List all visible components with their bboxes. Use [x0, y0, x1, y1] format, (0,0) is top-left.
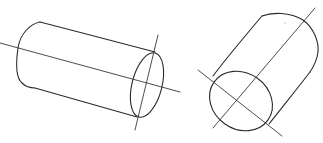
right-cylinder-top-edge	[213, 16, 262, 76]
right-cylinder-long-axis	[213, 8, 315, 128]
left-cylinder	[0, 22, 180, 130]
left-cylinder-top-edge	[40, 22, 155, 52]
left-cylinder-front-ellipse	[124, 49, 169, 120]
left-cylinder-back-arc	[17, 22, 40, 88]
pencil-mark	[284, 22, 286, 24]
right-cylinder	[198, 8, 318, 143]
left-cylinder-bottom-edge	[35, 88, 137, 117]
left-cylinder-long-axis	[0, 43, 180, 92]
right-cylinder-front-ellipse	[198, 59, 284, 143]
right-cylinder-bottom-edge	[269, 72, 310, 124]
right-cylinder-back-arc	[262, 13, 318, 72]
cylinder-sketch-canvas	[0, 0, 323, 143]
